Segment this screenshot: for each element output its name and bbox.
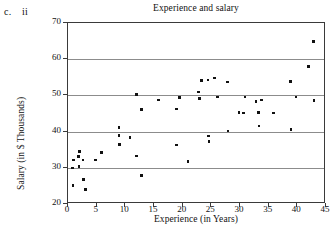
data-point (257, 111, 260, 114)
x-axis-tick-mark (210, 203, 211, 207)
data-point (260, 99, 263, 102)
x-axis-tick-mark (239, 203, 240, 207)
data-point (216, 96, 219, 99)
x-axis-tick-mark (296, 203, 297, 207)
data-point (187, 160, 190, 163)
data-point (227, 130, 230, 133)
y-axis-tick-label: 40 (21, 126, 61, 135)
x-axis-tick-mark (325, 203, 326, 207)
y-axis-tick-label: 30 (21, 162, 61, 171)
data-point (140, 174, 143, 177)
data-point (313, 99, 316, 102)
data-point (258, 125, 261, 128)
x-axis-tick-mark (124, 203, 125, 207)
data-point (208, 140, 211, 143)
data-point (290, 128, 293, 131)
data-point (175, 108, 178, 111)
y-axis-tick-label: 60 (21, 53, 61, 62)
data-point (118, 126, 121, 129)
x-axis-tick-label: 45 (313, 205, 334, 214)
data-point (207, 135, 210, 138)
data-point (94, 159, 97, 162)
data-point (140, 108, 143, 111)
data-point (100, 151, 103, 154)
data-point (77, 155, 80, 158)
x-axis-tick-mark (153, 203, 154, 207)
problem-roman-label: ii (22, 6, 28, 17)
data-point (242, 112, 245, 115)
chart-title: Experience and salary (67, 3, 325, 13)
data-point (312, 40, 315, 43)
y-axis-tick-label: 50 (21, 89, 61, 98)
data-point (289, 80, 292, 83)
data-point (71, 167, 74, 170)
data-point (82, 178, 85, 181)
x-axis-label: Experience (in Years) (67, 214, 325, 224)
x-axis-tick-mark (67, 203, 68, 207)
data-point (272, 112, 275, 115)
data-point (175, 144, 178, 147)
y-axis-label: Salary (in $ Thousands) (16, 97, 26, 190)
data-point (129, 136, 132, 139)
gridline (68, 95, 324, 96)
data-point (238, 111, 241, 114)
data-point (200, 79, 203, 82)
data-point (213, 77, 216, 80)
scatter-plot-figure: c. ii Experience and salary Salary (in $… (0, 0, 334, 225)
data-point (135, 93, 138, 96)
data-point (178, 96, 181, 99)
data-point (226, 81, 229, 84)
gridline (68, 132, 324, 133)
gridline (68, 168, 324, 169)
problem-letter-label: c. (4, 6, 11, 17)
x-axis-tick-mark (182, 203, 183, 207)
data-point (197, 91, 200, 94)
data-point (198, 97, 201, 100)
data-point (118, 134, 121, 137)
data-point (72, 159, 75, 162)
data-point (157, 99, 160, 102)
data-point (307, 65, 310, 68)
gridline (68, 59, 324, 60)
data-point (295, 96, 298, 99)
data-point (255, 100, 258, 103)
x-axis-tick-mark (96, 203, 97, 207)
data-point (78, 150, 81, 153)
data-point (118, 143, 121, 146)
data-point (78, 165, 81, 168)
data-point (72, 184, 75, 187)
data-point (84, 188, 87, 191)
data-point (135, 155, 138, 158)
data-point (82, 159, 85, 162)
data-point (244, 96, 247, 99)
plot-area (67, 22, 325, 203)
data-point (207, 79, 210, 82)
y-axis-tick-label: 70 (21, 17, 61, 26)
x-axis-tick-mark (268, 203, 269, 207)
